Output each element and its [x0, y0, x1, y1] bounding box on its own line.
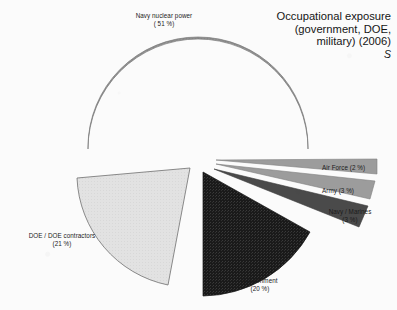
slice-label-air-force-name: Air Force (2 %)	[322, 164, 397, 172]
slice-label-army: Army (3 %)	[322, 187, 397, 195]
slice-label-government-value: (20 %)	[215, 285, 305, 293]
chart-figure: Occupational exposure (government, DOE, …	[0, 0, 397, 310]
slice-label-government: Government (20 %)	[215, 277, 305, 294]
slice-label-navy-nuclear-power-name: Navy nuclear power	[104, 12, 224, 20]
pie-slice-doe-contractors[interactable]	[77, 168, 190, 285]
chart-title-line-1: Occupational exposure	[277, 10, 391, 22]
chart-title: Occupational exposure (government, DOE, …	[236, 10, 391, 61]
slice-label-air-force: Air Force (2 %)	[322, 164, 397, 172]
slice-label-navy-marines-value: (3 %)	[310, 216, 390, 224]
chart-title-line-3: military) (2006)	[316, 35, 391, 47]
slice-label-navy-marines-name: Navy / Marines	[310, 208, 390, 216]
chart-title-line-2: (government, DOE,	[295, 23, 391, 35]
slice-label-government-name: Government	[215, 277, 305, 285]
slice-label-navy-nuclear-power-value: ( 51 %)	[104, 20, 224, 28]
slice-label-army-name: Army (3 %)	[322, 187, 397, 195]
slice-label-navy-nuclear-power: Navy nuclear power ( 51 %)	[104, 12, 224, 29]
slice-label-doe-contractors-name: DOE / DOE contractors	[6, 232, 118, 240]
slice-label-navy-marines: Navy / Marines (3 %)	[310, 208, 390, 225]
source-mark: S	[236, 48, 391, 61]
slice-label-doe-contractors-value: (21 %)	[6, 240, 118, 248]
slice-label-doe-contractors: DOE / DOE contractors (21 %)	[6, 232, 118, 249]
